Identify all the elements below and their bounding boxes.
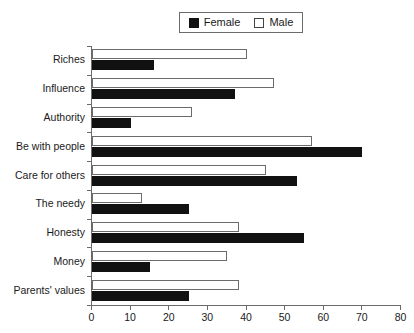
x-axis-tick-label: 70 [356,312,368,324]
bar-male [92,49,247,59]
bar-group [92,247,412,276]
x-axis-tick [284,305,285,310]
bar-male [92,251,227,261]
x-axis-tick [400,305,401,310]
bar-male [92,193,142,203]
chart-row: The needy [0,190,414,219]
chart-row: Care for others [0,161,414,190]
category-label: Authority [44,112,85,124]
bar-male [92,78,274,88]
bar-group [92,190,412,219]
bar-female [92,233,304,243]
bar-female [92,118,131,128]
bar-chart-plot: RichesInfluenceAuthorityBe with peopleCa… [0,0,414,333]
x-axis-tick [130,305,131,310]
bar-group [92,75,412,104]
bar-group [92,132,412,161]
x-axis-tick [246,305,247,310]
chart-row: Influence [0,75,414,104]
bar-female [92,291,189,301]
x-axis-tick-label: 80 [395,312,407,324]
chart-rows: RichesInfluenceAuthorityBe with peopleCa… [0,46,414,305]
x-axis-tick [207,305,208,310]
bar-male [92,165,266,175]
bar-male [92,136,312,146]
category-label: The needy [35,198,85,210]
category-label: Care for others [15,170,85,182]
bar-female [92,262,150,272]
bar-group [92,161,412,190]
bar-group [92,276,412,305]
bar-male [92,222,239,232]
category-label: Riches [53,55,85,67]
bar-male [92,280,239,290]
bar-group [92,219,412,248]
x-axis-tick-label: 60 [317,312,329,324]
bar-female [92,89,235,99]
chart-row: Parents' values [0,276,414,305]
x-axis-tick [361,305,362,310]
chart-row: Money [0,247,414,276]
bar-female [92,176,297,186]
category-label: Influence [42,83,85,95]
chart-row: Honesty [0,219,414,248]
x-axis-tick [91,305,92,310]
x-axis-ticks: 01020304050607080 [0,305,414,333]
bar-female [92,147,362,157]
x-axis-tick-label: 0 [89,312,95,324]
x-axis-tick-label: 40 [240,312,252,324]
bar-group [92,104,412,133]
x-axis-tick-label: 50 [279,312,291,324]
chart-row: Authority [0,104,414,133]
category-label: Parents' values [14,285,85,297]
chart-row: Be with people [0,132,414,161]
bar-group [92,46,412,75]
bar-male [92,107,192,117]
x-axis-tick [168,305,169,310]
x-axis-tick [323,305,324,310]
category-label: Money [53,256,85,268]
category-label: Honesty [46,227,85,239]
x-axis-tick-label: 10 [124,312,136,324]
x-axis-tick-label: 20 [163,312,175,324]
x-axis-tick-label: 30 [202,312,214,324]
chart-row: Riches [0,46,414,75]
bar-female [92,204,189,214]
category-label: Be with people [16,141,85,153]
bar-female [92,60,154,70]
